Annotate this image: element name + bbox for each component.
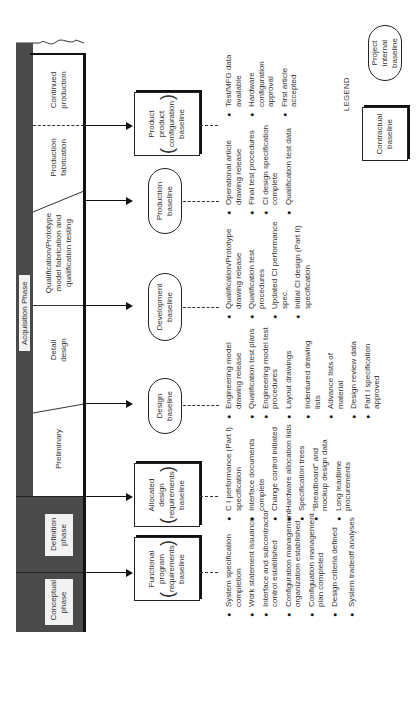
connector-line (86, 200, 126, 201)
phase-divider-dashed (33, 125, 84, 126)
baseline-product: Product ( product configuration ) baseli… (134, 92, 200, 156)
list-item: Qualification test procedures (247, 219, 266, 319)
dashed-leader (183, 201, 219, 202)
list-item: System tradeoff analyses (347, 509, 357, 617)
baseline-allocated: Allocated ( design requirements ) baseli… (134, 463, 200, 527)
dashed-leader (183, 307, 219, 308)
baseline-development: Development baseline (148, 273, 182, 341)
connector-line (86, 305, 126, 306)
bullets-functional: System specification completion Work sta… (224, 509, 361, 617)
legend-contractual-baseline: Contractual baseline (362, 107, 408, 161)
phase-definition: Definition phase (33, 497, 84, 573)
list-item: Design review data (349, 327, 359, 419)
bullets-development: Qualification/Prototype drawing release … (224, 219, 316, 319)
list-item: Test/MFG data available (224, 37, 243, 117)
arrow-down-icon (126, 122, 133, 130)
list-item: Configuation management plan completed (307, 509, 326, 617)
list-item: CI design specification complete (261, 123, 280, 215)
connector-line (86, 125, 126, 126)
list-item: Qualification test data (284, 123, 294, 215)
bullets-production: Operational article drawing release Fina… (224, 123, 297, 215)
list-item: Indentured drawing lists (303, 327, 322, 419)
list-item: Layout drawings (284, 327, 294, 419)
list-item: Engineering model test procedures (261, 327, 280, 419)
acquisition-phase-label: Acquisition Phase (19, 275, 30, 351)
phase-continued: Continued production (33, 55, 84, 125)
phase-production: Production fabrication (33, 126, 84, 189)
phase-bar-right-rule (30, 53, 86, 55)
paren-right-icon: ) (158, 94, 176, 100)
list-item: Interface and subcontractor control esta… (261, 509, 280, 617)
list-item: Updated CI performance spec. (270, 219, 289, 319)
list-item: Qualification test plans (247, 327, 257, 419)
bullets-product: Test/MFG data available Hardware configu… (224, 37, 303, 117)
arrow-down-icon (126, 493, 133, 501)
bullets-design: Engineering model drawing release Qualif… (224, 327, 386, 419)
list-item: First article accepted (280, 37, 299, 117)
list-item: Advance lists of material (326, 327, 345, 419)
dashed-leader (200, 496, 218, 497)
phase-detail: Detail design (33, 306, 84, 394)
arrow-down-icon (126, 197, 133, 205)
list-item: Operational article drawing release (224, 123, 243, 215)
baseline-functional: Functional ( program requirements ) base… (134, 537, 200, 601)
phase-bar-bottom-rule (83, 55, 86, 632)
list-item: Qualification/Prototype drawing release (224, 219, 243, 319)
dashed-leader (183, 405, 219, 406)
configuration-baseline-diagram: Acquisition Phase Conceptual phase Defin… (0, 0, 418, 709)
paren-right-icon: ) (158, 466, 176, 472)
connector-line (86, 496, 126, 497)
phase-conceptual: Conceptual phase (33, 573, 84, 632)
list-item: Design criteria defined (330, 509, 340, 617)
list-item: Long leadtime procurements (334, 423, 353, 521)
list-item: Hardware configuration approval (247, 37, 276, 117)
paren-left-icon: ( (158, 518, 176, 524)
dashed-leader (200, 125, 218, 126)
connector-line (86, 572, 126, 573)
paren-left-icon: ( (158, 592, 176, 598)
baseline-design: Design baseline (148, 378, 182, 434)
list-item: Configuration management organization es… (284, 509, 303, 617)
list-item: Initial CI design (Part II) specificatio… (293, 219, 312, 319)
list-item: "Breadboard" and mockup design data (311, 423, 330, 521)
torn-edge (10, 24, 90, 54)
legend-internal-baseline: Project internal baseline (368, 25, 402, 81)
list-item: Hardware allocation lists (284, 423, 294, 521)
dashed-leader (200, 572, 218, 573)
arrow-down-icon (126, 302, 133, 310)
list-item: Part I specification approved (363, 327, 382, 419)
list-item: Change control initiated (270, 423, 280, 521)
bullets-allocated: C I performance (Part I) specification I… (224, 423, 357, 521)
list-item: Final test procedures (247, 123, 257, 215)
paren-left-icon: ( (158, 148, 176, 154)
connector-line (86, 403, 126, 404)
paren-right-icon: ) (158, 540, 176, 546)
baseline-production: Production baseline (148, 168, 182, 234)
phase-divider (16, 572, 84, 573)
arrow-down-icon (126, 400, 133, 408)
list-item: Engineering model drawing release (224, 327, 243, 419)
phase-divider (33, 305, 84, 306)
list-item: Specification trees (297, 423, 307, 521)
list-item: Interface documents complete (247, 423, 266, 521)
list-item: C I performance (Part I) specification (224, 423, 243, 521)
phase-divider (16, 496, 84, 497)
list-item: System specification completion (224, 509, 243, 617)
legend-title: LEGEND (342, 77, 351, 111)
list-item: Work statement issuance (247, 509, 257, 617)
arrow-down-icon (126, 569, 133, 577)
